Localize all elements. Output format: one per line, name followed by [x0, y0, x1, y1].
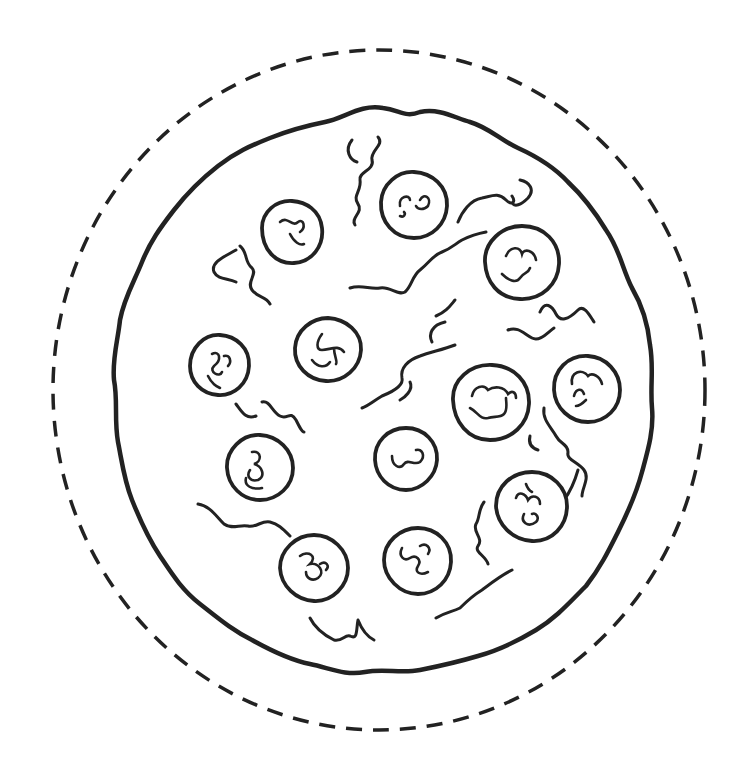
pepperoni-6	[453, 365, 529, 440]
pepperoni-12	[384, 528, 451, 594]
pepperoni-11	[280, 535, 348, 601]
pepperoni-2	[381, 172, 447, 238]
pepperoni-10	[496, 472, 567, 541]
pepperoni-9	[375, 428, 437, 490]
pepperoni-7	[554, 356, 620, 422]
pizza-coloring-illustration	[0, 0, 747, 782]
pepperoni-5	[295, 318, 361, 381]
pepperoni-8	[227, 435, 293, 500]
pepperoni-1	[262, 201, 322, 263]
pepperoni-3	[485, 226, 559, 299]
pepperoni-4	[190, 335, 249, 395]
